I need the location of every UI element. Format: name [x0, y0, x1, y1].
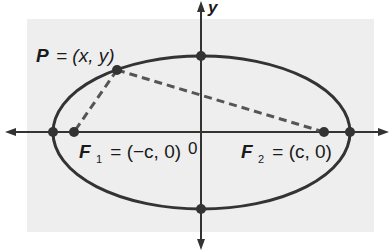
label-f1-coords: = (−c, 0)	[110, 141, 181, 162]
point-f1	[69, 127, 79, 137]
origin-label: 0	[188, 139, 197, 158]
ellipse-diagram: y 0 P = (x, y) F 1 = (−c, 0) F 2 = (c, 0…	[0, 0, 389, 251]
y-axis-label: y	[207, 0, 219, 17]
y-axis-bottom-arrow-icon	[197, 239, 205, 250]
y-axis-top-arrow-icon	[197, 1, 205, 12]
co-vertex-top	[196, 51, 206, 61]
point-f2	[319, 127, 329, 137]
x-axis-left-arrow-icon	[5, 128, 16, 136]
label-p-name: P	[36, 45, 49, 66]
label-f2-name: F	[241, 141, 254, 162]
label-f2-coords: = (c, 0)	[272, 141, 332, 162]
label-p: P = (x, y)	[36, 45, 115, 66]
label-p-coords: = (x, y)	[56, 45, 115, 66]
point-p	[112, 65, 122, 75]
label-f2-sub: 2	[258, 153, 264, 165]
label-f1-sub: 1	[96, 153, 102, 165]
label-f1-name: F	[79, 141, 92, 162]
co-vertex-bottom	[196, 204, 206, 214]
vertex-left	[48, 127, 58, 137]
vertex-right	[345, 127, 355, 137]
x-axis-right-arrow-icon	[378, 128, 389, 136]
